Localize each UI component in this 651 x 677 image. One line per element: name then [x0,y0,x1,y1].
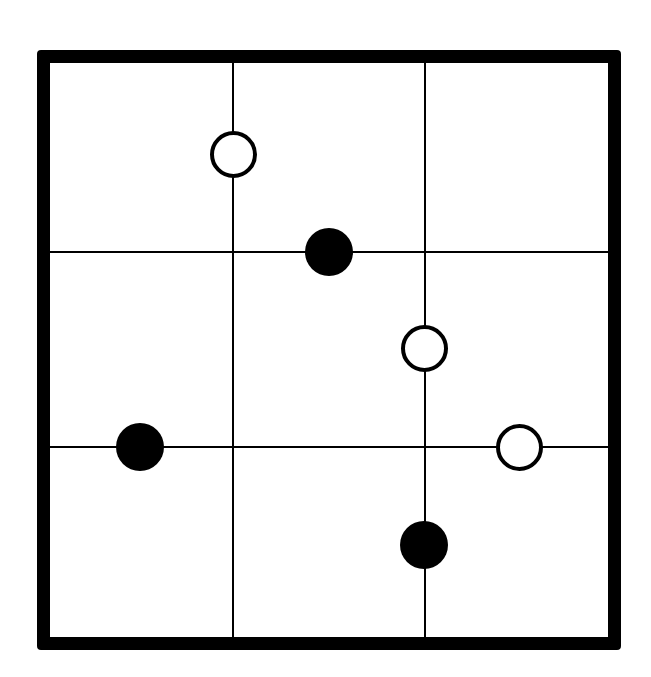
white-dot-1 [210,131,257,178]
black-dot-4 [116,423,164,471]
puzzle-board [37,50,621,650]
black-dot-2 [305,228,353,276]
black-dot-6 [400,521,448,569]
white-dot-3 [401,325,448,372]
white-dot-5 [496,424,543,471]
